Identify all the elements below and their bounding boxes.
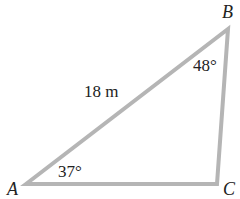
triangle-abc [26, 29, 228, 184]
side-label-ab: 18 m [84, 83, 118, 100]
vertex-label-a: A [7, 180, 18, 198]
triangle-diagram: B 48° 18 m 37° A C [0, 0, 240, 199]
vertex-label-b: B [222, 3, 233, 21]
angle-label-a: 37° [58, 163, 82, 180]
angle-label-b: 48° [193, 57, 217, 74]
vertex-label-c: C [223, 180, 235, 198]
triangle-shape [0, 0, 240, 199]
